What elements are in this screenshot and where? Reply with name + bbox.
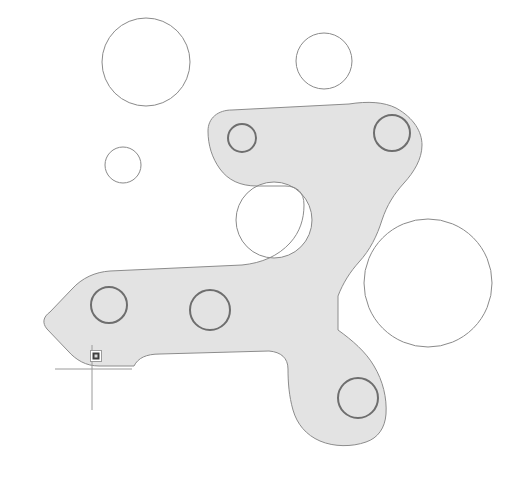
cad-drawing-canvas[interactable]: [0, 0, 518, 477]
cad-viewport[interactable]: [0, 0, 518, 477]
part-body-fill: [0, 0, 518, 477]
osnap-insertion-marker[interactable]: [91, 351, 102, 362]
osnap-marker-inner-square: [95, 355, 98, 358]
part-body-group[interactable]: [0, 0, 518, 477]
